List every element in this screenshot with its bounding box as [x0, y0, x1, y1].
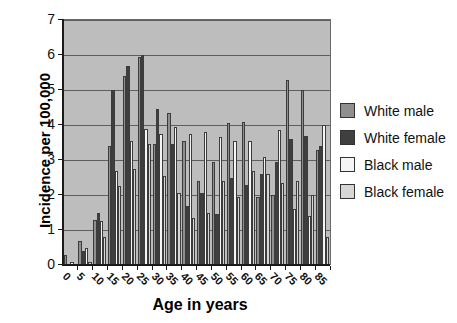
bar-black-female-age-20 [133, 169, 136, 265]
x-tick-label: 5 [75, 270, 88, 283]
legend-swatch [340, 184, 355, 199]
chart-container: Incidence per 100,000 Age in years White… [0, 0, 457, 323]
legend-label: White female [364, 130, 446, 146]
y-tick-label: 2 [25, 186, 55, 202]
x-axis-title: Age in years [110, 296, 290, 314]
bar-black-female-age-30 [163, 176, 166, 265]
bar-black-female-age-65 [266, 174, 269, 265]
bar-black-female-age-85 [326, 237, 329, 265]
y-tick-label: 7 [25, 11, 55, 27]
y-tick-label: 0 [25, 256, 55, 272]
x-tick [211, 266, 212, 270]
x-tick [285, 266, 286, 270]
bar-black-female-age-50 [222, 181, 225, 265]
bar-black-female-age-35 [177, 193, 180, 265]
y-tick-label: 6 [25, 46, 55, 62]
x-tick [241, 266, 242, 270]
x-tick [270, 266, 271, 270]
plot-area [63, 19, 331, 265]
bar-black-female-age-25 [148, 144, 151, 265]
legend-label: Black female [364, 184, 444, 200]
gridline [63, 20, 330, 21]
gridline [63, 125, 330, 126]
x-tick [226, 266, 227, 270]
x-tick [152, 266, 153, 270]
y-tick-label: 3 [25, 151, 55, 167]
x-tick [330, 266, 331, 270]
bar-black-female-age-60 [252, 171, 255, 266]
bar-black-female-age-15 [118, 186, 121, 265]
legend-item: White male [340, 103, 446, 118]
x-tick [196, 266, 197, 270]
gridline [63, 55, 330, 56]
legend-swatch [340, 130, 355, 145]
bar-black-female-age-40 [192, 218, 195, 265]
x-tick [107, 266, 108, 270]
legend-label: White male [364, 103, 434, 119]
x-tick-label: 85 [312, 270, 329, 287]
x-tick [181, 266, 182, 270]
x-tick [137, 266, 138, 270]
x-tick [122, 266, 123, 270]
y-tick-label: 1 [25, 221, 55, 237]
legend-item: White female [340, 130, 446, 145]
legend: White maleWhite femaleBlack maleBlack fe… [340, 103, 446, 211]
bar-black-female-age-80 [311, 195, 314, 265]
y-axis [62, 19, 64, 264]
x-tick [315, 266, 316, 270]
x-tick [255, 266, 256, 270]
x-tick [77, 266, 78, 270]
bar-black-female-age-55 [237, 197, 240, 265]
bar-black-female-age-75 [296, 181, 299, 265]
bar-black-female-age-70 [281, 183, 284, 265]
legend-item: Black female [340, 184, 446, 199]
x-tick-label: 0 [60, 270, 73, 283]
x-tick [92, 266, 93, 270]
legend-swatch [340, 157, 355, 172]
legend-item: Black male [340, 157, 446, 172]
x-tick [300, 266, 301, 270]
bar-black-female-age-10 [103, 237, 106, 265]
y-tick-label: 5 [25, 81, 55, 97]
y-tick-label: 4 [25, 116, 55, 132]
x-tick [166, 266, 167, 270]
legend-label: Black male [364, 157, 432, 173]
bar-black-female-age-45 [207, 213, 210, 266]
legend-swatch [340, 103, 355, 118]
gridline [63, 90, 330, 91]
